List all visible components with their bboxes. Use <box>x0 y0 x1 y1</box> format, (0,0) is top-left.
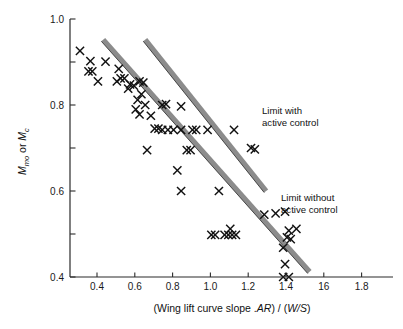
y-title-sub2: c <box>22 128 31 132</box>
x-title-p1: (Wing lift curve slope . <box>154 302 257 314</box>
x-tick-label: 0.6 <box>128 281 142 292</box>
x-tick-label: 0.8 <box>166 281 180 292</box>
x-title-p2: ) / ( <box>271 302 287 314</box>
x-title-italic-ar: AR <box>256 302 272 314</box>
y-tick-label: 0.4 <box>50 272 64 283</box>
annot-with-line1: Limit with <box>262 105 302 116</box>
y-title-m2: M <box>16 132 28 141</box>
x-tick-label: 1.4 <box>279 281 293 292</box>
x-title-italic-ws: W/S <box>287 302 307 314</box>
x-tick-label: 16 <box>318 281 330 292</box>
x-tick-label: 0.4 <box>90 281 104 292</box>
x-title-p3: ) <box>307 302 311 314</box>
y-title-or: or <box>16 141 28 156</box>
x-axis-title: (Wing lift curve slope .AR) / (W/S) <box>154 302 311 314</box>
x-tick-label: 1.2 <box>241 281 255 292</box>
y-tick-label: 0.8 <box>50 100 64 111</box>
annot-without-line1: Limit without <box>281 192 335 203</box>
annot-with-line2: active control <box>262 117 319 128</box>
y-tick-label: 1.0 <box>50 14 64 25</box>
y-title-sub1: mo <box>22 156 31 166</box>
chart-figure: 0.40.60.81.01.21.4161.80.40.60.81.0 Limi… <box>0 0 403 329</box>
x-tick-label: 1.8 <box>355 281 369 292</box>
annot-without-line2: active control <box>281 204 338 215</box>
x-axis-title-text: (Wing lift curve slope .AR) / (W/S) <box>154 302 311 314</box>
y-tick-label: 0.6 <box>50 186 64 197</box>
y-title-m1: M <box>16 166 28 175</box>
x-tick-label: 1.0 <box>203 281 217 292</box>
scatter-plot-svg: 0.40.60.81.01.21.4161.80.40.60.81.0 Limi… <box>0 0 403 329</box>
